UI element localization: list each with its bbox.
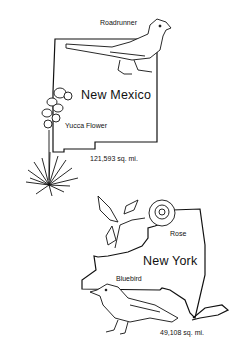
yucca-flower-icon xyxy=(26,88,78,196)
new-mexico-title: New Mexico xyxy=(81,88,151,102)
rose-icon xyxy=(98,196,175,248)
new-york-area: 49,108 sq. mi. xyxy=(160,329,204,336)
rose-label: Rose xyxy=(170,230,186,237)
illustration xyxy=(0,0,248,362)
new-mexico-area: 121,593 sq. mi. xyxy=(90,155,138,162)
bluebird-icon xyxy=(90,284,178,334)
yucca-flower-label: Yucca Flower xyxy=(65,122,107,129)
new-york-title: New York xyxy=(143,254,197,268)
roadrunner-icon xyxy=(66,19,171,74)
bluebird-label: Bluebird xyxy=(116,275,142,282)
roadrunner-label: Roadrunner xyxy=(100,19,137,26)
